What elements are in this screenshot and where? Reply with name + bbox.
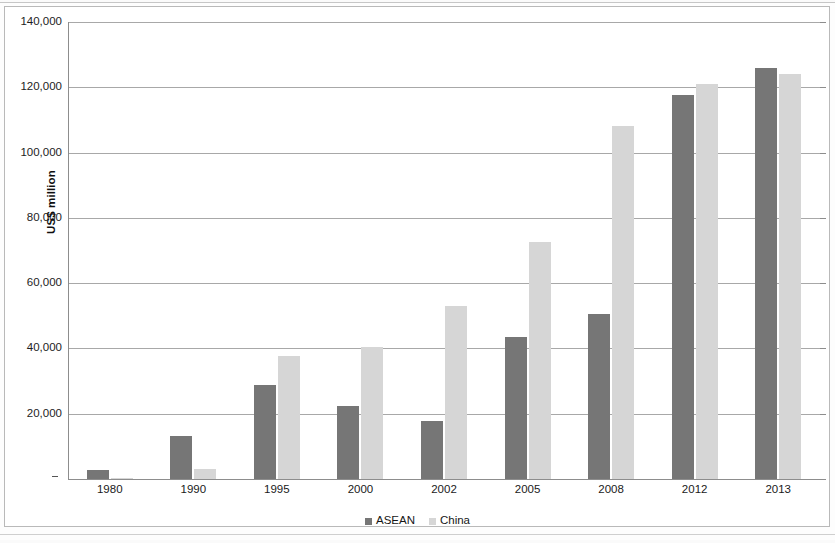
legend-label: ASEAN: [376, 515, 415, 527]
y-axis-tick-label: 20,000: [6, 408, 62, 420]
bar-china-2005: [529, 242, 551, 479]
legend-swatch-icon: [429, 518, 436, 525]
x-axis-tick-label: 2005: [488, 484, 568, 496]
y-axis-tick-mark: [820, 218, 826, 219]
legend-label: China: [440, 515, 470, 527]
y-axis-tick-label: 120,000: [6, 82, 62, 94]
y-axis-tick-mark: [820, 414, 826, 415]
bar-china-1995: [278, 356, 300, 479]
legend-entry-asean[interactable]: ASEAN: [365, 515, 415, 527]
x-axis-tick-label: 1980: [70, 484, 150, 496]
y-axis-tick-label: 100,000: [6, 147, 62, 159]
bar-asean-2000: [337, 406, 359, 479]
bar-china-2008: [612, 126, 634, 479]
y-axis-tick-labels: 140,000120,000100,00080,00060,00040,0002…: [0, 0, 62, 543]
bar-asean-1995: [254, 385, 276, 479]
bar-asean-2013: [755, 68, 777, 479]
y-axis-tick-mark: [820, 348, 826, 349]
bar-china-1980: [111, 478, 133, 479]
y-axis-tick-label: 80,000: [6, 212, 62, 224]
bar-asean-1990: [170, 436, 192, 479]
bar-china-2002: [445, 306, 467, 479]
bar-asean-2012: [672, 95, 694, 479]
x-axis-tick-label: 2013: [738, 484, 818, 496]
y-axis-tick-mark: [820, 22, 826, 23]
y-axis-tick-label: 40,000: [6, 343, 62, 355]
legend-swatch-icon: [365, 518, 372, 525]
bar-asean-2002: [421, 421, 443, 479]
y-axis-tick-mark: [820, 87, 826, 88]
y-axis-tick-label: 140,000: [6, 16, 62, 28]
x-axis-tick-label: 1995: [237, 484, 317, 496]
y-axis-tick-mark: [820, 283, 826, 284]
bar-china-2012: [696, 84, 718, 479]
x-axis-tick-label: 1990: [153, 484, 233, 496]
bar-asean-1980: [87, 470, 109, 479]
bar-china-1990: [194, 469, 216, 479]
bar-asean-2008: [588, 314, 610, 479]
bar-asean-2005: [505, 337, 527, 479]
bars-container: [68, 22, 820, 479]
x-axis-tick-label: 2002: [404, 484, 484, 496]
y-axis-tick-mark: [820, 479, 826, 480]
bar-chart: US$ million 140,000120,000100,00080,0006…: [0, 0, 835, 543]
x-axis-tick-label: 2008: [571, 484, 651, 496]
x-axis-tick-label: 2012: [655, 484, 735, 496]
bar-china-2013: [779, 74, 801, 479]
x-axis-tick-labels: 198019901995200020022005200820122013: [68, 484, 820, 504]
y-axis-tick-label: 60,000: [6, 277, 62, 289]
bar-china-2000: [361, 347, 383, 479]
chart-screenshot: US$ million 140,000120,000100,00080,0006…: [0, 0, 835, 543]
chart-legend: ASEANChina: [0, 513, 835, 529]
x-axis-tick-label: 2000: [320, 484, 400, 496]
legend-entry-china[interactable]: China: [429, 515, 470, 527]
y-axis-tick-mark: [820, 153, 826, 154]
y-axis-zero-tick: [52, 476, 58, 477]
